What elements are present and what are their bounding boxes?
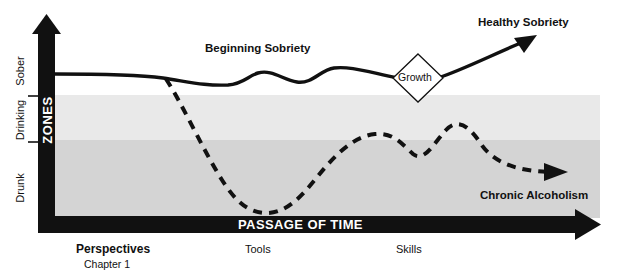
y-axis-title: ZONES xyxy=(38,22,55,218)
y-axis-title-text: ZONES xyxy=(39,96,54,143)
stage-label-perspectives: Perspectives xyxy=(76,243,150,255)
annotation-chronic-alcoholism: Chronic Alcoholism xyxy=(480,190,588,202)
annotation-growth: Growth xyxy=(398,72,432,83)
zone-label-drinking-text: Drinking xyxy=(15,100,26,140)
zone-label-drunk: Drunk xyxy=(12,160,28,216)
annotation-healthy-sobriety: Healthy Sobriety xyxy=(478,17,569,29)
zone-label-sober-text: Sober xyxy=(15,56,26,85)
stage-sublabel-perspectives-chapter: Chapter 1 xyxy=(84,259,130,270)
stage-label-tools: Tools xyxy=(245,244,271,255)
zone-label-drunk-text: Drunk xyxy=(15,173,26,202)
x-axis-title: PASSAGE OF TIME xyxy=(238,218,363,231)
stage-label-skills: Skills xyxy=(396,244,422,255)
diagram-canvas: ZONES Sober Drinking Drunk Beginning Sob… xyxy=(0,0,617,275)
sober-band xyxy=(55,22,600,95)
zone-label-sober: Sober xyxy=(12,48,28,94)
drunk-band xyxy=(55,140,600,218)
zone-label-drinking: Drinking xyxy=(12,98,28,142)
drinking-band xyxy=(55,95,600,140)
y-axis-ticks xyxy=(28,96,38,142)
annotation-beginning-sobriety: Beginning Sobriety xyxy=(205,43,310,55)
